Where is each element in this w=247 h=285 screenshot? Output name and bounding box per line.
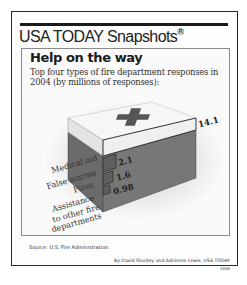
copyright-year: 2006 — [220, 266, 230, 271]
bar-assistance — [103, 185, 110, 195]
byline: By David Stuckey and Adrienne Lewis, USA… — [114, 258, 230, 263]
first-aid-kit-icon — [0, 0, 247, 285]
source-note: Source: U.S. Fire Administration — [29, 244, 108, 250]
